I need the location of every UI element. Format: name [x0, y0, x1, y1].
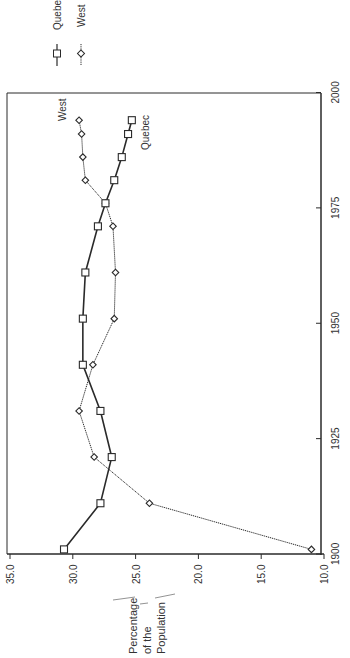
- diamond-marker-icon: [76, 117, 83, 124]
- diamond-marker-icon: [308, 546, 315, 553]
- series-markers: [61, 117, 315, 553]
- diamond-marker-icon: [78, 131, 85, 138]
- square-marker-icon: [79, 315, 86, 322]
- x-axis-ticks: 19001925195019752000: [316, 81, 341, 565]
- square-marker-icon: [82, 269, 89, 276]
- legend-label-west: West: [76, 4, 87, 27]
- y-tick-label: 35.0: [5, 564, 16, 584]
- square-marker-icon: [125, 131, 132, 138]
- diamond-marker-icon: [90, 362, 97, 369]
- legend-item-quebec: Quebec: [52, 0, 63, 66]
- west-annotation: West: [57, 98, 68, 121]
- y-tick-label: 20.0: [193, 564, 204, 584]
- square-marker-icon: [128, 117, 135, 124]
- rotated-line-chart: 19001925195019752000 35.030.025.020.015.…: [0, 0, 350, 658]
- square-marker-icon: [94, 223, 101, 230]
- diamond-marker-icon: [77, 50, 84, 57]
- square-marker-icon: [54, 50, 61, 57]
- y-tick-label: 10.0: [319, 564, 330, 584]
- square-marker-icon: [61, 546, 68, 553]
- y-axis-label: Percentage of the Population: [113, 594, 175, 654]
- x-tick-label: 1925: [330, 427, 341, 450]
- legend: Quebec West: [52, 0, 87, 66]
- x-tick-label: 1950: [330, 312, 341, 335]
- x-tick-label: 1900: [330, 542, 341, 565]
- square-marker-icon: [108, 454, 115, 461]
- plot-frame: [7, 93, 324, 555]
- square-marker-icon: [79, 361, 86, 368]
- diamond-marker-icon: [111, 315, 118, 322]
- diamond-marker-icon: [80, 154, 87, 161]
- y-axis-label-line-2: of the: [141, 626, 153, 654]
- y-tick-label: 25.0: [131, 564, 142, 584]
- legend-label-quebec: Quebec: [52, 0, 63, 30]
- square-marker-icon: [97, 407, 104, 414]
- quebec-annotation: Quebec: [140, 115, 151, 150]
- square-marker-icon: [97, 500, 104, 507]
- diamond-marker-icon: [110, 223, 117, 230]
- square-marker-icon: [111, 177, 118, 184]
- square-marker-icon: [102, 200, 109, 207]
- y-axis-label-line-1: Percentage: [127, 598, 139, 654]
- x-tick-label: 1975: [330, 196, 341, 219]
- quebec-series-line: [64, 120, 132, 549]
- legend-item-west: West: [76, 4, 87, 66]
- y-axis-label-line-3: Population: [155, 602, 167, 654]
- y-tick-label: 15.0: [256, 564, 267, 584]
- diamond-marker-icon: [76, 408, 83, 415]
- diamond-marker-icon: [146, 500, 153, 507]
- diamond-marker-icon: [112, 269, 119, 276]
- x-tick-label: 2000: [330, 81, 341, 104]
- diamond-marker-icon: [91, 454, 98, 461]
- west-series-line: [79, 120, 311, 549]
- y-tick-label: 30.0: [68, 564, 79, 584]
- label-underline: [140, 603, 148, 604]
- square-marker-icon: [118, 154, 125, 161]
- series-lines: [64, 120, 311, 549]
- label-underline: [155, 594, 175, 598]
- y-axis-ticks: 35.030.025.020.015.010.0: [5, 554, 330, 584]
